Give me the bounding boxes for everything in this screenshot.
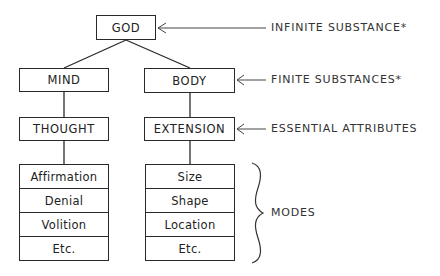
finite-substances-label: FINITE SUBSTANCES* xyxy=(271,73,402,86)
god-label: GOD xyxy=(112,21,141,35)
mode-shape: Shape xyxy=(146,189,234,213)
modes-brace xyxy=(252,163,263,263)
mode-volition: Volition xyxy=(20,213,108,237)
extension-modes-stack: Size Shape Location Etc. xyxy=(145,164,235,261)
mode-etc-thought: Etc. xyxy=(20,237,108,261)
thought-label: THOUGHT xyxy=(33,122,95,136)
extension-label: EXTENSION xyxy=(154,122,226,136)
body-box: BODY xyxy=(144,68,235,93)
infinite-substance-label: INFINITE SUBSTANCE* xyxy=(271,21,407,34)
thought-box: THOUGHT xyxy=(19,117,109,141)
mind-label: MIND xyxy=(47,73,80,87)
god-box: GOD xyxy=(96,15,156,40)
mode-denial: Denial xyxy=(20,189,108,213)
extension-box: EXTENSION xyxy=(144,117,235,141)
modes-label: MODES xyxy=(271,206,316,219)
mode-etc-extension: Etc. xyxy=(146,237,234,261)
body-label: BODY xyxy=(172,74,206,88)
mode-size: Size xyxy=(146,165,234,189)
mode-affirmation: Affirmation xyxy=(20,165,108,189)
mind-box: MIND xyxy=(19,68,109,92)
mode-location: Location xyxy=(146,213,234,237)
essential-attributes-label: ESSENTIAL ATTRIBUTES xyxy=(271,122,417,135)
thought-modes-stack: Affirmation Denial Volition Etc. xyxy=(19,164,109,261)
